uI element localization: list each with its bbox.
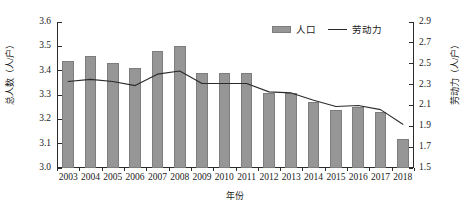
y-axis-title-right: 劳动力（人/户） — [448, 33, 461, 113]
y-tick-label-right: 2.5 — [419, 59, 445, 69]
x-tick-label: 2005 — [101, 172, 125, 182]
plot-area: 3.03.13.23.33.43.53.6 1.51.71.92.12.32.5… — [57, 22, 414, 168]
chart-figure: 总人数（人/户） 劳动力（人/户） 年份 人口 劳动力 3.03.13.23.3… — [0, 0, 469, 208]
x-tick-label: 2004 — [78, 172, 102, 182]
x-tick-label: 2008 — [168, 172, 192, 182]
y-tick-label-left: 3.1 — [25, 139, 51, 149]
x-tick — [347, 168, 348, 171]
x-tick — [146, 168, 147, 171]
x-tick — [369, 168, 370, 171]
x-tick — [236, 168, 237, 171]
y-tick-label-left: 3.5 — [25, 41, 51, 51]
x-tick-label: 2013 — [279, 172, 303, 182]
y-tick-label-right: 2.3 — [419, 80, 445, 90]
x-tick — [392, 168, 393, 171]
y-tick-label-left: 3.2 — [25, 114, 51, 124]
x-tick-label: 2018 — [391, 172, 415, 182]
x-tick-label: 2014 — [302, 172, 326, 182]
y-tick-label-right: 2.1 — [419, 100, 445, 110]
x-tick — [57, 168, 58, 171]
x-tick — [124, 168, 125, 171]
y-tick-label-right: 2.9 — [419, 17, 445, 27]
x-tick-label: 2010 — [212, 172, 236, 182]
y-tick-label-right: 1.5 — [419, 163, 445, 173]
x-tick — [102, 168, 103, 171]
x-tick-label: 2012 — [257, 172, 281, 182]
y-tick-label-left: 3.0 — [25, 163, 51, 173]
x-tick — [325, 168, 326, 171]
x-tick — [414, 168, 415, 171]
x-tick — [280, 168, 281, 171]
x-tick-label: 2007 — [145, 172, 169, 182]
x-tick-label: 2015 — [324, 172, 348, 182]
y-tick-label-left: 3.6 — [25, 17, 51, 27]
x-tick — [169, 168, 170, 171]
line-series-labor — [57, 22, 414, 168]
x-tick — [79, 168, 80, 171]
y-axis-title-left: 总人数（人/户） — [3, 33, 16, 113]
x-tick — [213, 168, 214, 171]
y-tick-label-right: 1.9 — [419, 121, 445, 131]
x-tick — [302, 168, 303, 171]
x-tick-label: 2017 — [369, 172, 393, 182]
labor-polyline — [68, 71, 403, 124]
x-tick-label: 2016 — [346, 172, 370, 182]
x-tick-label: 2003 — [56, 172, 80, 182]
y-tick-label-right: 2.7 — [419, 38, 445, 48]
x-tick-label: 2009 — [190, 172, 214, 182]
x-axis-title: 年份 — [0, 189, 469, 202]
y-tick-label-right: 1.7 — [419, 142, 445, 152]
x-tick-label: 2011 — [235, 172, 259, 182]
x-tick — [258, 168, 259, 171]
y-tick-label-left: 3.3 — [25, 90, 51, 100]
x-tick-label: 2006 — [123, 172, 147, 182]
y-tick-label-left: 3.4 — [25, 66, 51, 76]
x-tick — [191, 168, 192, 171]
